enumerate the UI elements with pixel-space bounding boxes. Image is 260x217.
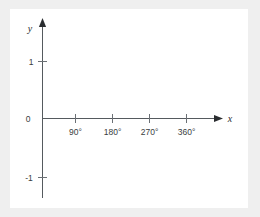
y-tick-label-neg1: -1 xyxy=(25,173,33,183)
x-axis-arrow-icon xyxy=(214,115,223,122)
figure-root: y x 1 0 -1 90° 180° 270° 360° xyxy=(0,0,260,217)
x-tick-label-360: 360° xyxy=(178,127,196,137)
x-tick-label-180: 180° xyxy=(104,127,122,137)
x-tick-label-90: 90° xyxy=(69,127,82,137)
y-tick-label-0: 0 xyxy=(26,114,31,124)
x-axis-label: x xyxy=(227,113,233,124)
y-axis-arrow-icon xyxy=(39,18,46,27)
coordinate-plane-chart: y x 1 0 -1 90° 180° 270° 360° xyxy=(0,0,260,217)
y-axis-label: y xyxy=(27,23,33,34)
x-tick-label-270: 270° xyxy=(141,127,159,137)
y-tick-label-1: 1 xyxy=(29,57,34,67)
